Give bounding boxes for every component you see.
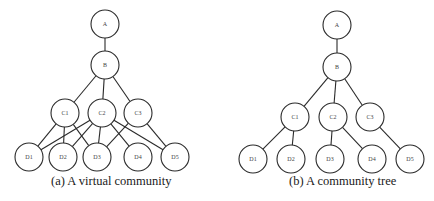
node-c3: C3 (356, 103, 384, 131)
node-d5: D5 (161, 143, 189, 171)
edge-c1-d2 (64, 127, 65, 143)
community-tree-graph: ABC1C2C3D1D2D3D4D5 (239, 11, 424, 173)
node-label: B (335, 64, 339, 70)
edge-c1-d2 (292, 131, 293, 145)
diagram-canvas: ABC1C2C3D1D2D3D4D5 ABC1C2C3D1D2D3D4D5 (0, 0, 434, 201)
node-label: D3 (93, 154, 100, 160)
node-label: A (335, 22, 340, 28)
node-d4: D4 (358, 145, 386, 173)
node-label: C2 (329, 114, 336, 120)
node-label: D2 (287, 156, 294, 162)
node-label: C1 (291, 114, 298, 120)
caption-community-tree: (b) A community tree (289, 174, 396, 189)
node-a: A (91, 10, 119, 38)
node-label: D5 (171, 154, 178, 160)
node-d3: D3 (83, 143, 111, 171)
edge-b-c3 (113, 77, 130, 102)
caption-virtual-community: (a) A virtual community (51, 174, 171, 189)
node-d2: D2 (277, 145, 305, 173)
edge-c3-d3 (107, 123, 129, 147)
node-label: D2 (59, 154, 66, 160)
node-label: D4 (134, 154, 141, 160)
node-label: D1 (25, 154, 32, 160)
node-label: C3 (366, 114, 373, 120)
edge-b-c1 (304, 78, 328, 107)
node-d2: D2 (49, 143, 77, 171)
edge-c2-d3 (99, 127, 101, 143)
node-c1: C1 (51, 99, 79, 127)
node-d1: D1 (15, 143, 43, 171)
node-c3: C3 (124, 99, 152, 127)
node-label: D5 (406, 156, 413, 162)
node-label: D4 (368, 156, 375, 162)
node-d4: D4 (124, 143, 152, 171)
edge-c3-d5 (147, 124, 166, 147)
node-c2: C2 (319, 103, 347, 131)
edge-c2-d3 (331, 131, 332, 145)
node-label: C2 (98, 110, 105, 116)
node-a: A (323, 11, 351, 39)
edge-c2-d4 (343, 127, 363, 148)
edge-b-c2 (103, 79, 104, 99)
node-c1: C1 (281, 103, 309, 131)
node-d1: D1 (239, 145, 267, 173)
node-label: A (103, 21, 108, 27)
edge-c3-d5 (380, 127, 401, 149)
node-label: D1 (249, 156, 256, 162)
node-label: C1 (61, 110, 68, 116)
node-label: B (103, 62, 107, 68)
edge-b-c2 (334, 81, 336, 103)
edge-b-c3 (345, 79, 363, 106)
node-label: C3 (134, 110, 141, 116)
node-d5: D5 (396, 145, 424, 173)
edge-c1-d1 (263, 127, 285, 149)
virtual-community-graph: ABC1C2C3D1D2D3D4D5 (15, 10, 189, 171)
edge-b-c1 (74, 76, 96, 102)
node-c2: C2 (88, 99, 116, 127)
node-b: B (323, 53, 351, 81)
node-d3: D3 (316, 145, 344, 173)
node-b: B (91, 51, 119, 79)
node-label: D3 (326, 156, 333, 162)
